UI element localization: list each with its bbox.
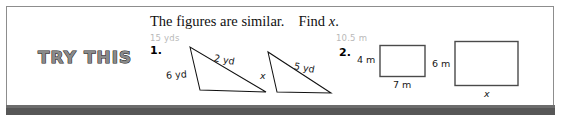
label-rectangle-small-width: 7 m [393, 79, 411, 90]
worksheet-page: TRY THIS The figures are similar.Find x.… [0, 0, 561, 128]
triangle-small-problem-1 [268, 52, 331, 93]
label-rectangle-large-height: 6 m [432, 58, 450, 69]
rectangle-small-problem-2 [380, 46, 425, 77]
ghost-label-problem-2: 10.5 m [336, 33, 367, 43]
label-rectangle-small-height: 4 m [357, 54, 375, 65]
rectangle-large-problem-2 [455, 42, 518, 86]
problem-number-2: 2. [339, 46, 351, 59]
label-triangle-small-unknown-side: x [260, 70, 266, 81]
bottom-rule-gap [6, 115, 555, 117]
label-rectangle-large-unknown-width: x [484, 88, 490, 99]
label-triangle-large-left-side: 6 yd [166, 68, 187, 80]
bottom-rule-highlight [6, 105, 555, 108]
